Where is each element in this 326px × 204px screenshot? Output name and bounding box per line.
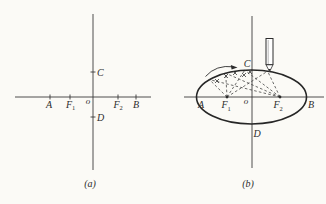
panel-b-label-F1-sub: 1 bbox=[228, 105, 231, 112]
panel-a-label-F2-sub: 2 bbox=[120, 104, 123, 111]
panel-b-label-F2: F2 bbox=[273, 99, 283, 112]
panel-b-caption: (b) bbox=[242, 178, 254, 190]
panel-b-label-F1: F1 bbox=[221, 99, 231, 112]
cross-mark bbox=[215, 79, 219, 83]
panel-b-label-origin: o bbox=[244, 96, 249, 106]
panel-a-label-F2: F2 bbox=[113, 99, 123, 112]
panel-b-label-F2-sub: 2 bbox=[280, 105, 283, 112]
panel-a-label-C: C bbox=[97, 67, 104, 78]
panel-a-label-D: D bbox=[96, 112, 105, 123]
panel-b-label-A: A bbox=[197, 99, 205, 110]
panel-a: A F1 o F2 B C D (a) bbox=[15, 14, 151, 190]
pencil-icon bbox=[266, 39, 273, 72]
panel-a-label-A: A bbox=[45, 99, 53, 110]
string-F2-pencil bbox=[268, 71, 280, 97]
panel-a-caption: (a) bbox=[84, 178, 96, 190]
panel-b-label-D: D bbox=[252, 128, 261, 139]
pencil-body bbox=[266, 39, 273, 65]
string-F2-P1 bbox=[209, 80, 280, 97]
focus-F2-dot bbox=[279, 96, 282, 99]
diagram-canvas: A F1 o F2 B C D (a) bbox=[0, 0, 326, 204]
panel-a-label-origin: o bbox=[86, 96, 91, 106]
focus-F1-dot bbox=[226, 96, 229, 99]
string-F2-P3 bbox=[245, 70, 280, 97]
panel-a-label-F1: F1 bbox=[65, 99, 75, 112]
panel-a-label-B: B bbox=[133, 99, 139, 110]
panel-b: A F1 o F2 B C D (b) bbox=[184, 16, 324, 190]
ellipse-construction-figure: A F1 o F2 B C D (a) bbox=[0, 0, 326, 204]
panel-a-label-F1-sub: 1 bbox=[72, 104, 75, 111]
rotation-arrow-head bbox=[231, 65, 238, 70]
panel-b-label-C: C bbox=[244, 58, 251, 69]
cross-marks bbox=[215, 70, 252, 83]
cross-mark bbox=[242, 73, 246, 77]
panel-b-label-B: B bbox=[308, 99, 314, 110]
